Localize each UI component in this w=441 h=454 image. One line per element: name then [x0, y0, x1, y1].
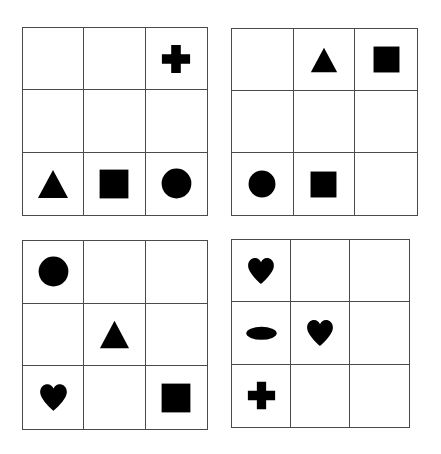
grid-cell-r1c2[interactable] [84, 28, 145, 90]
triangle-icon [37, 168, 69, 200]
square-icon [373, 46, 400, 73]
grid-cell-r1c1[interactable] [23, 28, 84, 90]
grid-cell-r2c1[interactable] [23, 90, 84, 152]
heart-icon [39, 383, 68, 412]
square-icon [99, 169, 129, 199]
grid-cell-r3c2[interactable] [294, 153, 356, 215]
grid-cell-r2c2[interactable] [84, 304, 145, 367]
ellipse-icon [246, 326, 277, 341]
puzzle-board [0, 0, 441, 454]
bottom-left-grid [22, 240, 208, 430]
grid-cell-r3c1[interactable] [23, 153, 84, 215]
cross-icon [161, 44, 191, 74]
grid-cell-r2c3[interactable] [146, 90, 207, 152]
heart-icon [247, 257, 275, 285]
grid-cell-r2c2[interactable] [294, 91, 356, 153]
cross-icon [247, 381, 276, 410]
grid-cell-r1c2[interactable] [291, 240, 350, 302]
grid-cell-r3c2[interactable] [291, 365, 350, 427]
grid-cell-r2c3[interactable] [355, 91, 417, 153]
grid-cell-r2c1[interactable] [232, 302, 291, 364]
grid-cell-r1c2[interactable] [294, 29, 356, 91]
grid-cell-r1c2[interactable] [84, 241, 145, 304]
circle-icon [248, 170, 276, 198]
grid-cell-r3c2[interactable] [84, 366, 145, 429]
grid-cell-r2c3[interactable] [146, 304, 207, 367]
grid-cell-r2c2[interactable] [84, 90, 145, 152]
grid-cell-r3c2[interactable] [84, 153, 145, 215]
grid-cell-r2c1[interactable] [23, 304, 84, 367]
grid-cell-r3c3[interactable] [350, 365, 409, 427]
circle-icon [161, 168, 192, 199]
triangle-icon [99, 319, 130, 350]
grid-cell-r3c3[interactable] [146, 153, 207, 215]
triangle-icon [310, 46, 338, 74]
square-icon [310, 171, 337, 198]
grid-cell-r2c1[interactable] [232, 91, 294, 153]
bottom-right-grid [231, 239, 410, 428]
grid-cell-r3c3[interactable] [146, 366, 207, 429]
grid-cell-r1c3[interactable] [350, 240, 409, 302]
top-left-grid [22, 27, 208, 216]
grid-cell-r1c1[interactable] [23, 241, 84, 304]
grid-cell-r3c1[interactable] [232, 153, 294, 215]
grid-cell-r2c2[interactable] [291, 302, 350, 364]
square-icon [161, 383, 191, 413]
grid-cell-r1c3[interactable] [355, 29, 417, 91]
grid-cell-r1c3[interactable] [146, 28, 207, 90]
grid-cell-r1c1[interactable] [232, 240, 291, 302]
grid-cell-r3c1[interactable] [232, 365, 291, 427]
circle-icon [38, 256, 69, 287]
grid-cell-r3c1[interactable] [23, 366, 84, 429]
grid-cell-r1c3[interactable] [146, 241, 207, 304]
grid-cell-r3c3[interactable] [355, 153, 417, 215]
grid-cell-r1c1[interactable] [232, 29, 294, 91]
grid-cell-r2c3[interactable] [350, 302, 409, 364]
top-right-grid [231, 28, 418, 216]
heart-icon [306, 319, 334, 347]
